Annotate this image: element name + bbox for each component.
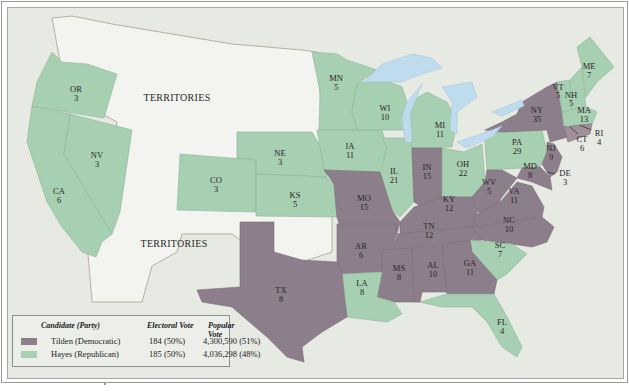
votes-wi: 10: [381, 112, 390, 122]
votes-ny: 35: [533, 114, 542, 124]
votes-ms: 8: [397, 272, 401, 282]
map-legend: Candidate (Party) Electoral Vote Popular…: [12, 315, 230, 367]
votes-co: 3: [214, 184, 218, 194]
legend-electoral-vote: 184 (50%): [149, 336, 185, 346]
votes-ca: 6: [57, 195, 61, 205]
legend-candidate-name: Hayes (Republican): [51, 349, 119, 359]
legend-row-tilden: Tilden (Democratic) 184 (50%) 4,300,590 …: [13, 336, 229, 348]
votes-ma: 13: [580, 114, 589, 124]
votes-mo: 15: [360, 202, 369, 212]
votes-tx: 8: [279, 294, 283, 304]
votes-ky: 12: [445, 203, 454, 213]
legend-header-electoral: Electoral Vote: [147, 321, 193, 330]
votes-wv: 5: [487, 186, 491, 196]
votes-ri: 4: [597, 137, 602, 147]
votes-de: 3: [563, 177, 567, 187]
votes-pa: 29: [513, 146, 522, 156]
legend-popular-vote: 4,036,298 (48%): [203, 349, 260, 359]
votes-va: 11: [510, 195, 518, 205]
votes-ct: 6: [580, 143, 584, 153]
votes-nh: 5: [569, 98, 573, 108]
votes-or: 3: [74, 93, 78, 103]
territories-label-south: TERRITORIES: [140, 238, 207, 249]
legend-electoral-vote: 185 (50%): [149, 349, 185, 359]
state-ms: [377, 248, 414, 302]
votes-oh: 22: [459, 168, 468, 178]
votes-il: 21: [390, 175, 399, 185]
votes-mn: 5: [334, 82, 338, 92]
votes-ar: 6: [359, 250, 363, 260]
votes-nc: 10: [505, 224, 514, 234]
map-frame-inner: TERRITORIES TERRITORIES OR 3 CA 6 NV 3 C…: [7, 7, 624, 379]
legend-header-candidate: Candidate (Party): [41, 321, 100, 330]
votes-tn: 12: [425, 230, 434, 240]
votes-nv: 3: [95, 159, 99, 169]
lake-superior: [364, 54, 442, 82]
votes-md: 8: [528, 170, 532, 180]
territories-label-north: TERRITORIES: [143, 92, 210, 103]
votes-la: 8: [360, 287, 364, 297]
legend-candidate-name: Tilden (Democratic): [51, 336, 120, 346]
votes-in: 15: [423, 171, 432, 181]
stray-mark: [104, 383, 106, 385]
votes-ne: 3: [278, 157, 282, 167]
votes-me: 7: [587, 70, 591, 80]
votes-ks: 5: [293, 199, 297, 209]
votes-al: 10: [429, 269, 438, 279]
map-frame-outer: TERRITORIES TERRITORIES OR 3 CA 6 NV 3 C…: [1, 1, 628, 383]
legend-row-hayes: Hayes (Republican) 185 (50%) 4,036,298 (…: [13, 349, 229, 361]
votes-nj: 9: [549, 152, 553, 162]
legend-popular-vote: 4,300,590 (51%): [203, 336, 260, 346]
votes-mi: 11: [436, 129, 444, 139]
votes-ia: 11: [346, 150, 354, 160]
votes-sc: 7: [498, 249, 502, 259]
votes-ga: 11: [466, 267, 474, 277]
republican-swatch: [21, 351, 37, 358]
democratic-swatch: [21, 338, 37, 345]
votes-vt: 5: [556, 90, 560, 100]
